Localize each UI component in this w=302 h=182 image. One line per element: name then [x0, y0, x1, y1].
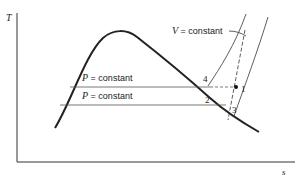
point-label-3: 3 — [232, 105, 237, 115]
volume-label: V = constant — [172, 25, 223, 36]
point-label-2: 2 — [205, 95, 210, 105]
state-point-1 — [234, 85, 238, 89]
y-axis-label: T — [6, 12, 13, 23]
x-axis-label: s — [282, 167, 286, 177]
pressure-label-lower: P = constant — [81, 90, 133, 101]
point-label-4: 4 — [203, 74, 208, 84]
superheat-curve-upper — [208, 14, 246, 86]
ts-diagram: T s P = constant P = constant V = consta… — [0, 0, 302, 182]
volume-line — [228, 30, 245, 120]
pressure-label-upper: P = constant — [81, 72, 133, 83]
point-label-1: 1 — [241, 84, 246, 94]
